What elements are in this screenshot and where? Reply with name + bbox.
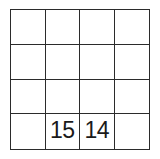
- grid-cell-r2c4[interactable]: [115, 45, 150, 80]
- grid-cell-r4c1[interactable]: [11, 114, 46, 149]
- grid-cell-r4c2[interactable]: 15: [46, 114, 81, 149]
- grid-cell-r1c4[interactable]: [115, 10, 150, 45]
- grid-cell-r2c2[interactable]: [46, 45, 81, 80]
- grid-cell-value: 14: [84, 119, 109, 142]
- grid-cell-r1c3[interactable]: [80, 10, 115, 45]
- grid-cell-r1c2[interactable]: [46, 10, 81, 45]
- grid-cell-r1c1[interactable]: [11, 10, 46, 45]
- grid-cell-r2c3[interactable]: [80, 45, 115, 80]
- grid-cell-r3c4[interactable]: [115, 80, 150, 115]
- grid-cell-r3c3[interactable]: [80, 80, 115, 115]
- grid-cell-value: 15: [50, 119, 75, 142]
- grid-container: 15 14: [0, 0, 160, 159]
- grid-cell-r3c2[interactable]: [46, 80, 81, 115]
- grid-cell-r4c4[interactable]: [115, 114, 150, 149]
- grid-cell-r4c3[interactable]: 14: [80, 114, 115, 149]
- grid-cell-r2c1[interactable]: [11, 45, 46, 80]
- number-grid: 15 14: [10, 9, 150, 150]
- grid-cell-r3c1[interactable]: [11, 80, 46, 115]
